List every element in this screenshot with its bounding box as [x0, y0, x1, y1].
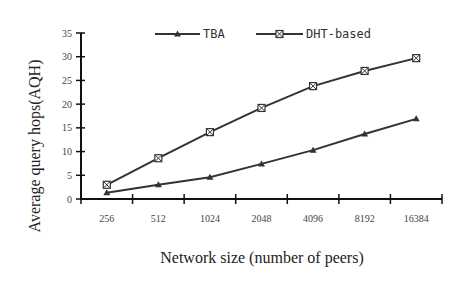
x-tick-label: 512 [151, 213, 166, 224]
crossed-square-marker-icon [276, 31, 283, 38]
y-tick-label: 30 [62, 51, 72, 62]
x-tick-label: 16384 [404, 213, 429, 224]
y-axis: 05101520253035 [62, 28, 85, 205]
crossed-square-marker-icon [310, 83, 317, 90]
x-tick-label: 1024 [200, 213, 220, 224]
y-tick-label: 20 [62, 99, 72, 110]
y-tick-label: 5 [67, 170, 72, 181]
legend-label: DHT-based [306, 27, 371, 41]
x-axis: 256512102420484096819216384 [80, 194, 442, 224]
x-tick-label: 2048 [252, 213, 272, 224]
x-tick-label: 8192 [355, 213, 375, 224]
crossed-square-marker-icon [258, 104, 265, 111]
line-chart: 05101520253035 2565121024204840968192163… [0, 0, 465, 288]
x-tick-label: 256 [99, 213, 114, 224]
legend-label: TBA [203, 27, 225, 41]
y-tick-label: 35 [62, 28, 72, 39]
y-tick-label: 10 [62, 146, 72, 157]
y-tick-label: 25 [62, 75, 72, 86]
x-axis-title: Network size (number of peers) [160, 249, 363, 267]
chart-canvas: 05101520253035 2565121024204840968192163… [0, 0, 465, 288]
crossed-square-marker-icon [413, 55, 420, 62]
y-tick-label: 0 [67, 194, 72, 205]
legend: TBADHT-based [155, 27, 371, 41]
y-tick-label: 15 [62, 122, 72, 133]
legend-item-tba: TBA [155, 27, 225, 41]
crossed-square-marker-icon [361, 67, 368, 74]
y-axis-title: Average query hops(AQH) [26, 60, 44, 233]
triangle-marker-icon [413, 115, 420, 121]
legend-item-dht-based: DHT-based [256, 27, 371, 41]
x-tick-label: 4096 [303, 213, 323, 224]
crossed-square-marker-icon [206, 129, 213, 136]
crossed-square-marker-icon [155, 155, 162, 162]
crossed-square-marker-icon [103, 181, 110, 188]
series-line [107, 119, 416, 193]
series-tba [103, 115, 419, 195]
plot-area [103, 55, 419, 196]
series-dht-based [103, 55, 419, 189]
